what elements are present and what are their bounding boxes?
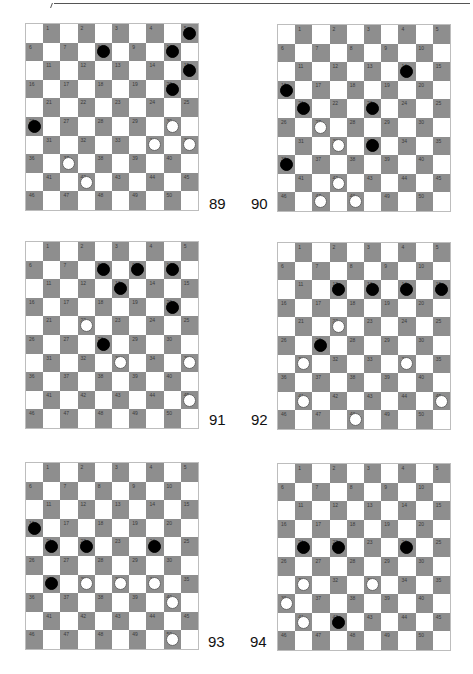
- square-number: 49: [132, 193, 138, 198]
- light-square: [181, 409, 198, 428]
- light-square: [164, 98, 181, 117]
- light-square: [347, 501, 364, 520]
- light-square: [433, 373, 450, 392]
- light-square: [78, 298, 95, 317]
- light-square: [295, 631, 312, 650]
- light-square: [112, 482, 129, 501]
- square-43: 43: [364, 392, 381, 411]
- square-24: 24: [398, 538, 415, 557]
- square-number: 13: [367, 64, 373, 69]
- light-square: [60, 612, 77, 631]
- light-square: [95, 24, 112, 43]
- square-number: 3: [115, 26, 118, 31]
- light-square: [347, 137, 364, 156]
- square-21: 21: [43, 98, 60, 117]
- square-27: 27: [312, 118, 329, 137]
- light-square: [278, 613, 295, 632]
- light-square: [381, 613, 398, 632]
- light-square: [60, 391, 77, 410]
- light-square: [416, 355, 433, 374]
- square-number: 25: [436, 101, 442, 106]
- square-number: 2: [81, 26, 84, 31]
- square-number: 50: [419, 633, 425, 638]
- light-square: [433, 631, 450, 650]
- black-piece-icon: [131, 263, 144, 276]
- square-number: 35: [436, 139, 442, 144]
- square-13: 13: [112, 279, 129, 298]
- square-number: 17: [63, 300, 69, 305]
- square-44: 44: [146, 612, 163, 631]
- square-number: 41: [298, 176, 304, 181]
- square-number: 40: [419, 157, 425, 162]
- light-square: [312, 174, 329, 193]
- light-square: [78, 117, 95, 136]
- square-23: 23: [364, 99, 381, 118]
- square-40: 40: [416, 155, 433, 174]
- square-number: 38: [98, 595, 104, 600]
- square-23: 23: [364, 317, 381, 336]
- black-piece-icon: [97, 263, 110, 276]
- square-number: 49: [384, 194, 390, 199]
- light-square: [43, 519, 60, 538]
- square-8: 8: [95, 482, 112, 501]
- square-2: 2: [330, 464, 347, 483]
- light-square: [381, 355, 398, 374]
- square-38: 38: [347, 373, 364, 392]
- square-number: 17: [63, 82, 69, 87]
- square-6: 6: [26, 482, 43, 501]
- square-2: 2: [330, 25, 347, 44]
- square-6: 6: [278, 44, 295, 63]
- square-11: 11: [295, 280, 312, 299]
- square-number: 35: [436, 578, 442, 583]
- light-square: [416, 174, 433, 193]
- light-square: [347, 576, 364, 595]
- light-square: [433, 336, 450, 355]
- white-piece-icon: [297, 616, 310, 629]
- square-23: 23: [112, 537, 129, 556]
- square-number: 26: [281, 559, 287, 564]
- square-17: 17: [60, 519, 77, 538]
- square-9: 9: [129, 43, 146, 62]
- square-number: 21: [46, 100, 52, 105]
- square-number: 34: [401, 139, 407, 144]
- black-piece-icon: [280, 158, 293, 171]
- light-square: [26, 575, 43, 594]
- square-number: 16: [281, 522, 287, 527]
- white-piece-icon: [114, 577, 127, 590]
- light-square: [60, 242, 77, 261]
- square-number: 33: [367, 357, 373, 362]
- light-square: [433, 557, 450, 576]
- square-44: 44: [398, 613, 415, 632]
- square-number: 18: [98, 300, 104, 305]
- square-number: 27: [63, 119, 69, 124]
- light-square: [347, 243, 364, 262]
- square-number: 37: [63, 595, 69, 600]
- square-7: 7: [312, 262, 329, 281]
- black-piece-icon: [314, 339, 327, 352]
- square-8: 8: [347, 483, 364, 502]
- square-21: 21: [295, 538, 312, 557]
- square-25: 25: [181, 98, 198, 117]
- square-35: 35: [181, 575, 198, 594]
- square-34: 34: [146, 575, 163, 594]
- square-24: 24: [146, 98, 163, 117]
- square-33: 33: [112, 136, 129, 155]
- square-23: 23: [112, 316, 129, 335]
- square-number: 14: [149, 502, 155, 507]
- light-square: [295, 483, 312, 502]
- square-10: 10: [164, 482, 181, 501]
- square-number: 9: [132, 484, 135, 489]
- square-number: 43: [367, 615, 373, 620]
- light-square: [278, 392, 295, 411]
- light-square: [312, 501, 329, 520]
- light-square: [295, 410, 312, 429]
- light-square: [398, 631, 415, 650]
- square-28: 28: [347, 118, 364, 137]
- white-piece-icon: [297, 395, 310, 408]
- square-number: 7: [315, 485, 318, 490]
- square-number: 19: [384, 301, 390, 306]
- light-square: [146, 298, 163, 317]
- square-number: 46: [281, 633, 287, 638]
- square-number: 5: [436, 27, 439, 32]
- light-square: [181, 154, 198, 173]
